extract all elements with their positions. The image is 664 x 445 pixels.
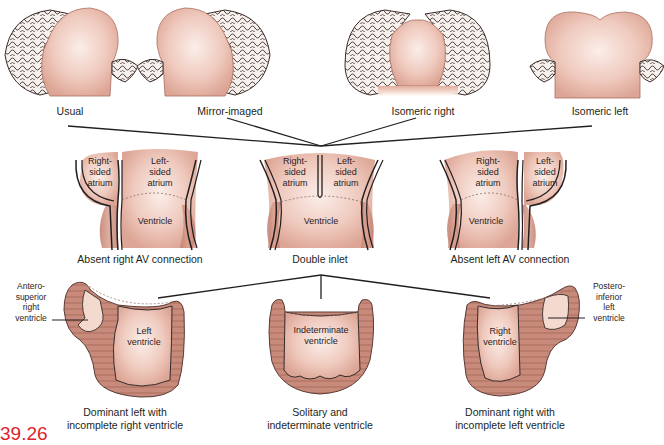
figure-number: 39.26	[0, 424, 48, 444]
atria-mirror-imaged-illustration	[137, 8, 270, 96]
connector-lines-bottom	[158, 275, 490, 299]
atria-usual-illustration	[5, 8, 138, 96]
chamber-label-ventricle-1: Ventricle	[130, 216, 180, 227]
connector-lines-top	[68, 118, 592, 146]
univentricular-heart-diagram: Usual Mirror-imaged Isomeric right Isome…	[0, 0, 664, 445]
side-label-antero-superior-rv: Antero- superior right ventricle	[6, 281, 56, 323]
chamber-label-left-atrium-3: Left- sided atrium	[525, 156, 565, 189]
chamber-label-right-ventricle: Right ventricle	[478, 326, 522, 348]
caption-solitary-indeterminate: Solitary and indeterminate ventricle	[245, 406, 395, 432]
chamber-label-ventricle-3: Ventricle	[461, 216, 511, 227]
caption-absent-left-av: Absent left AV connection	[425, 253, 595, 266]
label-isomeric-left: Isomeric left	[555, 105, 645, 117]
chamber-label-left-atrium-1: Left- sided atrium	[138, 156, 182, 189]
side-label-postero-inferior-lv: Postero- inferior left ventricle	[584, 281, 634, 323]
chamber-label-right-atrium-1: Right- sided atrium	[80, 156, 120, 189]
label-isomeric-right: Isomeric right	[378, 105, 468, 117]
chamber-label-indeterminate-ventricle: Indeterminate ventricle	[286, 325, 356, 347]
chamber-label-ventricle-2: Ventricle	[296, 216, 346, 227]
caption-double-inlet: Double inlet	[270, 253, 370, 266]
caption-dominant-left: Dominant left with incomplete right vent…	[50, 406, 200, 432]
chamber-label-right-atrium-3: Right- sided atrium	[466, 156, 510, 189]
chamber-label-right-atrium-2: Right- sided atrium	[275, 156, 315, 189]
chamber-label-left-atrium-2: Left- sided atrium	[326, 156, 366, 189]
chamber-label-left-ventricle: Left ventricle	[120, 326, 168, 348]
atria-isomeric-right-illustration	[345, 10, 490, 98]
caption-dominant-right: Dominant right with incomplete left vent…	[435, 406, 585, 432]
label-usual: Usual	[40, 105, 100, 117]
caption-absent-right-av: Absent right AV connection	[55, 253, 225, 266]
atria-isomeric-left-illustration	[530, 12, 664, 98]
label-mirror-imaged: Mirror-imaged	[185, 105, 275, 117]
